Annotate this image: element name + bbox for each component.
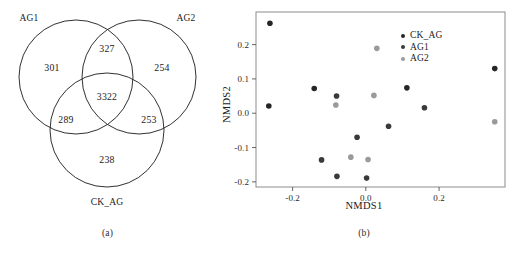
x-tick-label: -0.2: [285, 193, 300, 203]
data-point: [333, 102, 339, 108]
x-tick-label: 0.0: [360, 193, 372, 203]
y-axis-title: NMDS2: [221, 70, 232, 140]
panel-a-venn: AG1AG2CK_AG3013272543322289253238 (a): [0, 0, 215, 254]
data-point: [374, 46, 380, 52]
legend-marker-icon: [401, 57, 405, 61]
venn-count-ck_ag_only: 238: [99, 154, 114, 165]
legend-item-ck_ag: CK_AG: [401, 30, 443, 42]
y-tick-label: -0.1: [234, 143, 249, 153]
venn-set-label-ck_ag: CK_AG: [91, 197, 124, 207]
nmds-plot-canvas: [215, 0, 513, 225]
venn-circle-ag1: [19, 20, 133, 134]
legend-label: AG1: [410, 43, 429, 53]
venn-count-ag1_ck_ag: 289: [58, 114, 73, 125]
data-point: [266, 103, 272, 109]
data-point: [422, 105, 428, 111]
data-point: [334, 174, 340, 180]
data-point: [492, 119, 498, 125]
data-point: [311, 86, 317, 92]
venn-count-ag2_ck_ag: 253: [141, 114, 156, 125]
y-tick-label: 0.2: [237, 40, 249, 50]
data-point: [319, 157, 325, 163]
figure-root: AG1AG2CK_AG3013272543322289253238 (a) NM…: [0, 0, 513, 254]
legend-label: AG2: [410, 54, 429, 64]
y-tick-label: -0.2: [234, 177, 249, 187]
panel-b-nmds-scatter: NMDS1 NMDS2 CK_AGAG1AG2 -0.20.00.20.20.1…: [215, 0, 513, 254]
data-point: [364, 175, 370, 181]
x-tick-label: 0.2: [433, 193, 445, 203]
legend-marker-icon: [401, 34, 405, 38]
data-point: [354, 134, 360, 140]
y-tick-label: 0.0: [237, 108, 249, 118]
data-point: [371, 93, 377, 99]
legend-item-ag2: AG2: [401, 53, 443, 65]
data-point: [365, 157, 371, 163]
legend-marker-icon: [401, 45, 405, 49]
venn-count-ag1_ag2: 327: [99, 43, 114, 54]
venn-set-label-ag1: AG1: [19, 13, 38, 23]
legend: CK_AGAG1AG2: [401, 30, 443, 65]
data-point: [404, 85, 410, 91]
series-ck_ag: [266, 21, 498, 109]
subcaption-b: (b): [215, 228, 513, 238]
venn-circle-ag2: [82, 20, 196, 134]
venn-set-label-ag2: AG2: [176, 13, 195, 23]
data-point: [334, 93, 340, 99]
venn-count-ag1_ag2_ck_ag: 3322: [97, 91, 117, 102]
legend-item-ag1: AG1: [401, 42, 443, 54]
subcaption-a: (a): [0, 228, 215, 238]
y-tick-label: 0.1: [237, 74, 249, 84]
plot-frame: [256, 12, 505, 187]
venn-count-ag1_only: 301: [44, 62, 59, 73]
venn-circles: [0, 0, 215, 215]
data-point: [386, 123, 392, 129]
legend-label: CK_AG: [410, 31, 443, 41]
nmds-plot: NMDS1 NMDS2 CK_AGAG1AG2 -0.20.00.20.20.1…: [215, 0, 513, 225]
venn-count-ag2_only: 254: [154, 62, 169, 73]
data-point: [492, 66, 498, 72]
venn-diagram: AG1AG2CK_AG3013272543322289253238: [0, 0, 215, 215]
data-point: [348, 154, 354, 160]
data-point: [267, 21, 273, 27]
